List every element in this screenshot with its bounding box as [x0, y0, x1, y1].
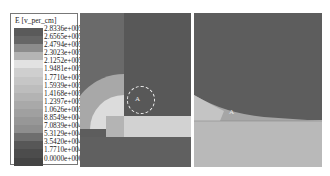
marker-a: A: [229, 108, 234, 116]
legend-swatch: [14, 85, 43, 93]
legend-swatch: [14, 133, 43, 141]
legend-swatch: [14, 52, 43, 60]
curved-boundary: [194, 13, 322, 167]
legend-swatch: [14, 36, 43, 44]
field-plot-left: A: [80, 13, 191, 167]
bright-bar: [124, 116, 191, 137]
legend-labels: 2.8336e+0052.6565e+0052.4794e+0052.3023e…: [44, 25, 82, 163]
legend-swatch: [14, 158, 43, 166]
legend-swatch: [14, 149, 43, 157]
legend-swatch: [14, 77, 43, 85]
legend-swatch: [14, 68, 43, 76]
color-legend: E [v_per_cm] 2.8336e+0052.6565e+0052.479…: [10, 13, 78, 165]
legend-swatch: [14, 44, 43, 52]
legend-swatch: [14, 93, 43, 101]
legend-label: 0.0000e+000: [44, 155, 82, 163]
legend-swatches: [14, 28, 43, 166]
bar-left-segment: [106, 116, 124, 137]
field-plot-right: A: [194, 13, 322, 167]
legend-swatch: [14, 117, 43, 125]
legend-swatch: [14, 109, 43, 117]
highlight-circle: [127, 86, 155, 114]
legend-swatch: [14, 101, 43, 109]
marker-a: A: [135, 95, 140, 103]
legend-swatch: [14, 28, 43, 36]
legend-swatch: [14, 141, 43, 149]
legend-swatch: [14, 125, 43, 133]
region-bottom: [80, 137, 191, 167]
legend-swatch: [14, 60, 43, 68]
